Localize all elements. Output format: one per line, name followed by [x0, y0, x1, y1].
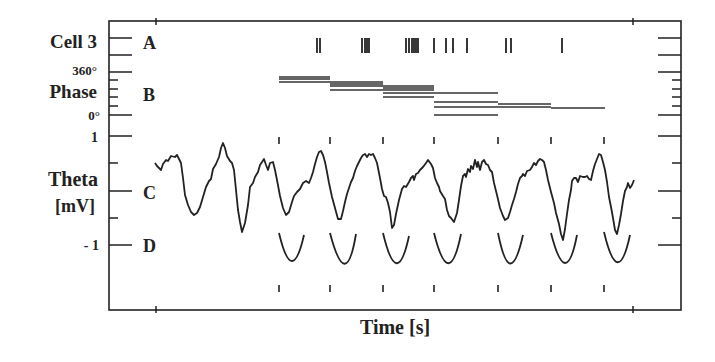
right-y-ticks — [658, 38, 681, 245]
panel-label-c: C — [143, 183, 156, 203]
panel-label-b: B — [143, 85, 155, 105]
fitted-troughs — [279, 232, 630, 264]
figure: Cell 3 360° Phase 0° 1 Theta [mV] - 1 A … — [0, 0, 715, 362]
phase-bottom-tick-label: 0° — [88, 108, 100, 123]
theta-label: Theta — [48, 168, 98, 190]
left-y-ticks — [109, 38, 132, 245]
x-ticks — [156, 18, 633, 313]
panel-label-a: A — [143, 33, 156, 53]
cell-label: Cell 3 — [50, 31, 97, 52]
panel-label-d: D — [143, 236, 156, 256]
theta-trace — [155, 143, 634, 240]
phase-top-tick-label: 360° — [72, 63, 97, 78]
theta-bottom-tick-label: - 1 — [84, 238, 99, 253]
phase-label: Phase — [50, 81, 98, 102]
x-axis-label: Time [s] — [360, 316, 430, 338]
phase-bars — [279, 77, 605, 115]
spike-raster — [317, 38, 562, 53]
cycle-markers — [279, 137, 604, 292]
theta-top-tick-label: 1 — [91, 130, 98, 145]
theta-unit-label: [mV] — [55, 196, 95, 216]
